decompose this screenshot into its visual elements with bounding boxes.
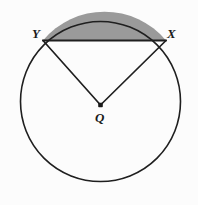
radius-line-QX	[101, 41, 167, 106]
circle-outline	[21, 22, 181, 182]
circle-segment-diagram: Y X Q	[0, 0, 198, 205]
point-label-X: X	[167, 27, 176, 40]
point-label-Q: Q	[95, 111, 104, 124]
radius-line-QY	[43, 41, 101, 106]
center-dot	[98, 103, 103, 108]
point-label-Y: Y	[32, 27, 40, 40]
